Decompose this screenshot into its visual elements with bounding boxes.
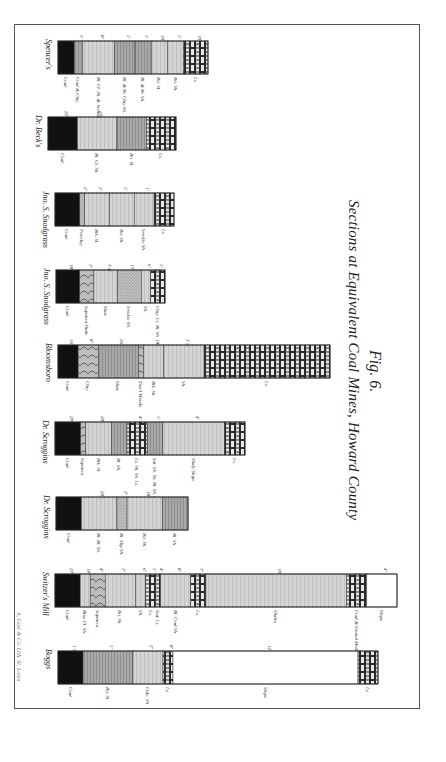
layer-label: Coal & Clay — [75, 77, 80, 103]
layer-label: Coal. — [60, 153, 65, 164]
layer-thickness: 5' — [159, 264, 164, 269]
layer-limestone — [154, 193, 174, 226]
layer-label: Ls. — [365, 686, 370, 693]
layer-thickness: 7' — [88, 264, 93, 269]
section-name: Dr. Scroggins — [42, 494, 51, 539]
layer-shale — [85, 193, 110, 226]
layer-thickness: 7' — [123, 491, 128, 496]
layer-coal — [56, 497, 81, 530]
layer-label: Ls. — [148, 609, 153, 616]
layer-label: Bit. Sh. — [173, 77, 178, 92]
layer-clay — [78, 345, 98, 378]
layer-shale — [133, 651, 163, 684]
layer-coal — [58, 345, 78, 378]
layer-label: Septaria Shale — [84, 306, 89, 336]
layer-label: Clay. Ls. Bl. Sh. — [155, 306, 160, 338]
layer-label: Coal — [65, 610, 70, 620]
layer-label: Slope — [379, 610, 384, 622]
layer-label: Bit. Sl. — [156, 77, 161, 90]
layer-shale — [161, 574, 191, 607]
section-column: Coal16'Clay8'Slate26'Dun'l MoudsBlk. Sh.… — [44, 339, 330, 407]
layer-label: Blk. Sh. — [151, 381, 156, 396]
layer-limestone — [146, 574, 156, 607]
layer-shale-dark — [147, 422, 162, 455]
layer-label: Ls. — [195, 609, 200, 616]
layer-shale — [134, 193, 154, 226]
layer-thickness: 5' — [123, 187, 128, 192]
layer-label: Sh. — [138, 610, 143, 616]
layer-label: Coal. — [63, 77, 68, 88]
layer-thickness: 4' — [159, 568, 164, 573]
layer-label: Bl. Sh. — [172, 533, 177, 546]
layer-limestone — [191, 574, 206, 607]
section-name: Dr. Scroggins — [41, 419, 50, 464]
layer-thickness: 1' — [145, 187, 150, 192]
layer-shale — [94, 270, 118, 303]
layer-shale — [167, 41, 183, 74]
title-block: Fig. 6. Sections at Equivalent Coal Mine… — [338, 200, 398, 580]
layer-label: Coal — [65, 381, 70, 391]
lithographer-credit: A. Gast & Co. Lith. St. Louis — [16, 612, 22, 681]
layer-limestone — [224, 422, 245, 455]
layer-shale — [105, 574, 135, 607]
layer-clay — [139, 345, 144, 378]
layer-shale — [110, 193, 135, 226]
layer-thickness: 5' — [109, 645, 114, 650]
layer-limestone — [156, 574, 161, 607]
layer-thickness: 7' — [121, 568, 126, 573]
layer-thickness: 7.4' — [107, 264, 112, 272]
layer-limestone — [146, 117, 176, 150]
section-column: Coal.18'Septaria Shale7'Slate7.4'Smokie … — [42, 264, 165, 338]
layer-thickness: 8' — [177, 568, 182, 573]
layer-label: Coal. — [64, 229, 69, 240]
layer-limestone — [358, 651, 378, 684]
layer-shale-dark — [115, 41, 135, 74]
layer-label: Coal. — [65, 306, 70, 317]
layer-label: Sh. — [181, 381, 186, 387]
layer-shale — [144, 345, 164, 378]
layer-label: Bl. Slip Sh. — [119, 533, 124, 555]
layer-thickness: 4' — [99, 568, 104, 573]
layer-label: Shaly Slope — [191, 458, 196, 482]
layer-thickness: 6' — [147, 264, 152, 269]
layer-label: Ls. — [193, 76, 198, 83]
layer-thickness: 8' — [100, 35, 105, 40]
section-name: Jno. S. Snodgrass — [41, 191, 50, 248]
layer-shale-dark — [74, 41, 82, 74]
layer-clay — [90, 574, 105, 607]
layer-label: Shales — [273, 610, 278, 623]
layer-label: Bl. Bl. Sh. — [96, 533, 101, 553]
section-name: Bloomsboro — [44, 343, 53, 382]
figure-title: Sections at Equivalent Coal Mines, Howar… — [345, 200, 362, 520]
layer-shale — [163, 422, 225, 455]
layer-label: Slope — [263, 687, 268, 699]
section-column: CoalBl. Bl. Sh.24'Bl. Slip Sh.7'Bit. Sh.… — [42, 491, 188, 555]
layer-label: Bit. Sh. — [142, 533, 147, 548]
layer-label: Bl. & Br. Clay Sh. — [122, 77, 127, 113]
layer-coal — [56, 270, 80, 303]
layer-coal — [58, 41, 74, 74]
section-name: Dr. Beck's — [34, 114, 43, 147]
layer-thickness: 7.5' — [185, 339, 190, 347]
layer-shale — [206, 574, 347, 607]
layer-thickness: 8' — [89, 339, 94, 344]
section-name: Jno. S. Snodgrass — [42, 268, 51, 325]
section-column: Coal.22'Bl. Cl. Sh.27'Bit. Sl.Ls.Dr. Bec… — [34, 111, 176, 173]
layer-thickness: 1.5' — [72, 645, 77, 653]
section-column: Coal1.5'Bit. Sl.5'Calc. Sh.2'Ls.8'Slope1… — [44, 645, 378, 705]
layer-shale — [78, 117, 117, 150]
layer-shale-dark — [135, 41, 151, 74]
layer-shale — [86, 422, 112, 455]
layer-label: Coal — [66, 533, 71, 543]
layer-limestone — [127, 422, 148, 455]
layer-shale-dark — [98, 345, 138, 378]
layer-thickness: 5' — [126, 35, 131, 40]
layer-label: Ls. Sh. Sh. Ls. — [134, 457, 139, 486]
layer-thickness: 4' — [195, 416, 200, 421]
layer-thickness: 5' — [152, 568, 157, 573]
layer-shale — [151, 41, 167, 74]
layer-shale-dark — [111, 422, 126, 455]
layer-sandstone — [117, 497, 127, 530]
layer-coal — [55, 422, 81, 455]
layer-label: Bl. Coal Sh. — [173, 610, 178, 634]
